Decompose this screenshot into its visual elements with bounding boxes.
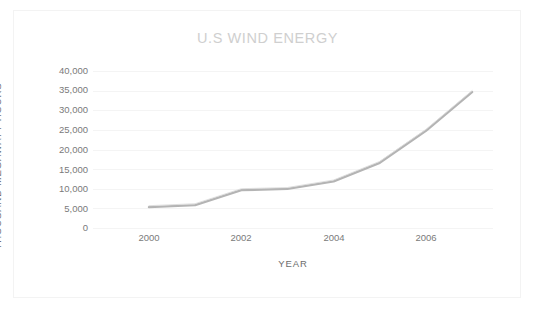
plot-area	[93, 64, 493, 230]
x-axis-tick-labels: 2000 2002 2004 2006	[0, 232, 535, 246]
series-polyline-highlight	[149, 91, 472, 206]
x-axis-title: YEAR	[93, 258, 493, 269]
x-tick-label: 2004	[304, 232, 364, 243]
wind-energy-line-chart: U.S WIND ENERGY THOUSAND MEGAWATT HOURS …	[0, 0, 535, 314]
x-tick-label: 2000	[119, 232, 179, 243]
x-tick-label: 2002	[211, 232, 271, 243]
x-tick-label: 2006	[396, 232, 456, 243]
series-polyline	[149, 92, 472, 207]
